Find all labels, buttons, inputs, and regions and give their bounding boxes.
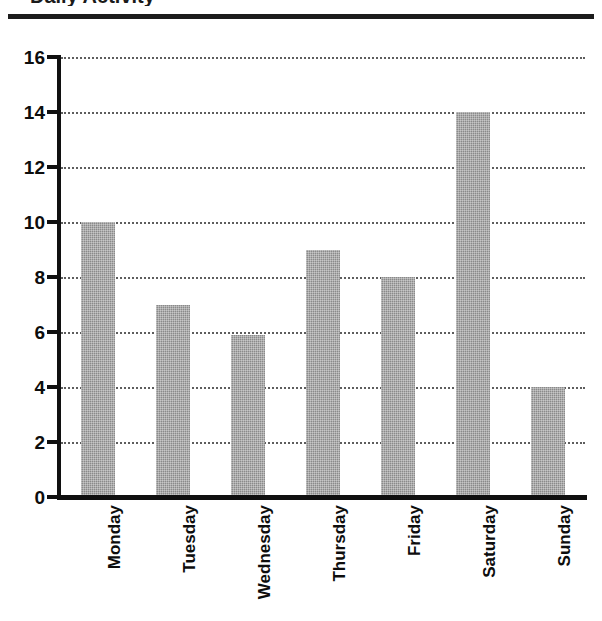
plot-area [61, 57, 585, 497]
y-axis-tick [47, 55, 61, 59]
y-axis-tick-label: 6 [1, 323, 45, 342]
y-axis-tick-labels: 0246810121416 [0, 0, 45, 621]
bar[interactable] [306, 250, 340, 498]
y-axis-tick [47, 110, 61, 114]
bar[interactable] [531, 387, 565, 497]
y-axis-tick [47, 330, 61, 334]
x-axis-tick-label: Wednesday [256, 505, 273, 621]
bar[interactable] [156, 305, 190, 498]
gridline [61, 112, 585, 114]
bar-chart: 0246810121416 MondayTuesdayWednesdayThur… [0, 0, 602, 621]
y-axis-tick-label: 0 [1, 488, 45, 507]
x-axis-tick-label: Saturday [481, 505, 498, 621]
y-axis-tick [47, 220, 61, 224]
bar[interactable] [456, 112, 490, 497]
y-axis-tick-label: 2 [1, 433, 45, 452]
y-axis-tick-label: 4 [1, 378, 45, 397]
x-axis-tick-label: Thursday [331, 505, 348, 621]
x-axis-line [57, 495, 587, 500]
x-axis-tick-label: Friday [406, 505, 423, 621]
bar[interactable] [381, 277, 415, 497]
bar[interactable] [81, 222, 115, 497]
y-axis-tick [47, 275, 61, 279]
gridline [61, 167, 585, 169]
x-axis-tick-label: Sunday [556, 505, 573, 621]
y-axis-tick-label: 12 [1, 158, 45, 177]
bar[interactable] [231, 335, 265, 497]
y-axis-tick-label: 14 [1, 103, 45, 122]
y-axis-tick-label: 16 [1, 48, 45, 67]
y-axis-tick-label: 8 [1, 268, 45, 287]
y-axis-tick [47, 165, 61, 169]
y-axis-tick [47, 440, 61, 444]
gridline [61, 57, 585, 59]
x-axis-tick-label: Monday [106, 505, 123, 621]
y-axis-tick-label: 10 [1, 213, 45, 232]
y-axis-tick [47, 495, 61, 499]
x-axis-tick-label: Tuesday [181, 505, 198, 621]
gridline [61, 222, 585, 224]
y-axis-tick [47, 385, 61, 389]
